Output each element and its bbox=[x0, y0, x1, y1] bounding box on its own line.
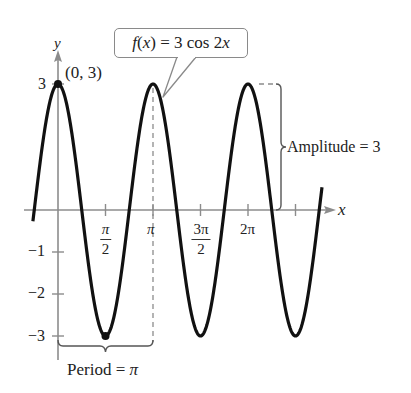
callout-eq: = 3 cos 2 bbox=[156, 33, 222, 53]
amplitude-brace-icon bbox=[276, 84, 286, 210]
function-callout: f(x) = 3 cos 2x bbox=[114, 28, 248, 58]
point-0-3 bbox=[54, 80, 62, 88]
ytick-label-m2: −2 bbox=[28, 285, 45, 301]
xtick-3pi-half-num-text: 3π bbox=[193, 221, 208, 237]
xtick-3pi-half-num: 3π bbox=[191, 222, 210, 240]
callout-pointer bbox=[163, 57, 196, 97]
point-min-pi-half bbox=[102, 332, 110, 340]
xtick-label-pi: π bbox=[147, 222, 155, 237]
period-label: Period = π bbox=[67, 361, 138, 378]
ytick-label-m3: −3 bbox=[28, 328, 45, 344]
xtick-label-pi-half: π 2 bbox=[100, 222, 112, 257]
xtick-3pi-half-den: 2 bbox=[197, 240, 205, 257]
y-axis-label: y bbox=[54, 36, 61, 51]
ytick-label-3: 3 bbox=[38, 76, 46, 92]
period-brace-icon bbox=[58, 340, 153, 352]
xtick-label-2pi: 2π bbox=[240, 222, 255, 237]
xtick-pi-half-num: π bbox=[100, 222, 112, 240]
amplitude-label: Amplitude = 3 bbox=[287, 139, 380, 155]
callout-x2: x bbox=[222, 33, 230, 53]
x-axis-label: x bbox=[338, 201, 346, 218]
axes bbox=[24, 50, 336, 360]
callout-x: x bbox=[143, 33, 151, 53]
xtick-label-3pi-half: 3π 2 bbox=[191, 222, 210, 257]
point-label: (0, 3) bbox=[65, 64, 102, 81]
xtick-pi-half-den: 2 bbox=[102, 240, 110, 257]
cosine-graph bbox=[0, 0, 411, 393]
period-pi: π bbox=[129, 360, 138, 379]
ytick-label-m1: −1 bbox=[28, 243, 45, 259]
period-text: Period = bbox=[67, 360, 129, 379]
callout-pointer-joint bbox=[178, 55, 195, 58]
